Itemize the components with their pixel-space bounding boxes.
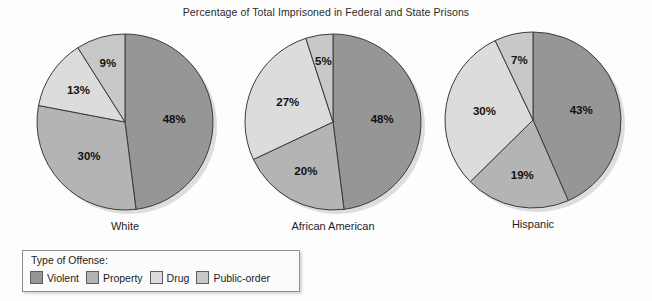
legend-item-property[interactable]: Property — [86, 271, 143, 284]
page-title: Percentage of Total Imprisoned in Federa… — [0, 6, 652, 18]
pie-slices — [25, 22, 225, 222]
pie-category-label: African American — [233, 220, 433, 232]
legend-item-label: Violent — [47, 272, 79, 284]
chart-canvas: Percentage of Total Imprisoned in Federa… — [0, 0, 652, 301]
legend: Type of Offense: ViolentPropertyDrugPubl… — [22, 250, 300, 292]
legend-swatch-icon — [150, 271, 163, 284]
pie-chart-2: 48%20%27%5% — [233, 22, 433, 222]
legend-item-label: Public-order — [213, 272, 270, 284]
pie-category-label: White — [25, 220, 225, 232]
pie-slice-violent — [333, 34, 421, 209]
legend-item-label: Property — [103, 272, 143, 284]
legend-item-violent[interactable]: Violent — [30, 271, 79, 284]
legend-item-drug[interactable]: Drug — [150, 271, 190, 284]
pie-slices — [233, 22, 433, 222]
pie-chart-1: 48%30%13%9% — [25, 22, 225, 222]
legend-item-label: Drug — [167, 272, 190, 284]
legend-items: ViolentPropertyDrugPublic-order — [30, 271, 270, 284]
legend-swatch-icon — [196, 271, 209, 284]
pie-slice-violent — [125, 34, 213, 209]
legend-item-public-order[interactable]: Public-order — [196, 271, 270, 284]
pie-category-label: Hispanic — [433, 218, 633, 230]
legend-swatch-icon — [30, 271, 43, 284]
legend-title: Type of Offense: — [31, 254, 108, 266]
pie-chart-3: 43%19%30%7% — [433, 20, 633, 220]
legend-swatch-icon — [86, 271, 99, 284]
pie-slices — [433, 20, 633, 220]
